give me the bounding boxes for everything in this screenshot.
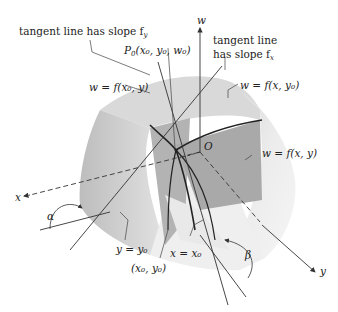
angle-alpha-label: α bbox=[47, 211, 54, 222]
point-p0 bbox=[174, 148, 177, 151]
curve-x0-label: w = f(x₀, y) bbox=[89, 82, 148, 93]
curve-y0-label: w = f(x, y₀) bbox=[240, 80, 299, 91]
w-axis-label: w bbox=[197, 15, 206, 26]
x-axis-label: x bbox=[15, 192, 21, 203]
angle-beta-label: β bbox=[245, 250, 251, 261]
point-p0-label: P0(x₀, y₀, w₀) bbox=[124, 45, 191, 58]
tangent-fy-label: tangent line has slope fy bbox=[19, 26, 147, 39]
surface bbox=[80, 76, 296, 270]
plane-y0-label: y = y₀ bbox=[116, 244, 148, 255]
surface-label: w = f(x, y) bbox=[262, 148, 317, 159]
base-point-label: (x₀, y₀) bbox=[131, 263, 166, 274]
alpha-arc bbox=[50, 204, 82, 229]
plane-x0-label: x = x₀ bbox=[170, 248, 202, 259]
y-axis-label: y bbox=[320, 266, 326, 277]
origin-label: O bbox=[204, 141, 213, 152]
tangent-fx-label: tangent line has slope fx bbox=[213, 33, 277, 65]
